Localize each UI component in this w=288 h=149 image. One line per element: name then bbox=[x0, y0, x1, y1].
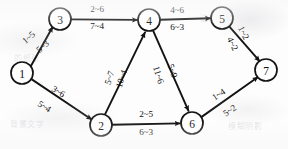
edge-3-4-line bbox=[71, 19, 138, 20]
node-6[interactable]: 6 bbox=[181, 112, 203, 134]
edge-3-4-label-top: 2~6 bbox=[90, 5, 104, 14]
edge-3-4-label-bottom: 7~4 bbox=[90, 22, 104, 31]
node-6-label: 6 bbox=[189, 118, 195, 130]
node-5-label: 5 bbox=[219, 13, 225, 25]
edge-4-5-line bbox=[160, 18, 211, 19]
edge-2-6-label-top: 2~5 bbox=[139, 110, 153, 119]
node-1-label: 1 bbox=[19, 68, 25, 80]
node-1[interactable]: 1 bbox=[11, 62, 33, 84]
node-7[interactable]: 7 bbox=[255, 59, 277, 81]
edge-2-6-line bbox=[112, 123, 180, 124]
node-3[interactable]: 3 bbox=[49, 8, 71, 30]
node-2[interactable]: 2 bbox=[90, 114, 112, 136]
node-5[interactable]: 5 bbox=[211, 7, 233, 29]
node-3-label: 3 bbox=[57, 14, 63, 26]
node-4[interactable]: 4 bbox=[138, 9, 160, 31]
node-2-label: 2 bbox=[98, 120, 104, 132]
node-7-label: 7 bbox=[263, 65, 269, 77]
diagram-canvas: 1 2 3 4 5 6 7 bbox=[0, 0, 288, 149]
edge-2-6-label-bottom: 6~3 bbox=[139, 128, 153, 137]
edge-4-5-label-top: 4~6 bbox=[170, 6, 184, 15]
node-4-label: 4 bbox=[146, 15, 152, 27]
edge-4-5-label-bottom: 6~3 bbox=[170, 23, 184, 32]
